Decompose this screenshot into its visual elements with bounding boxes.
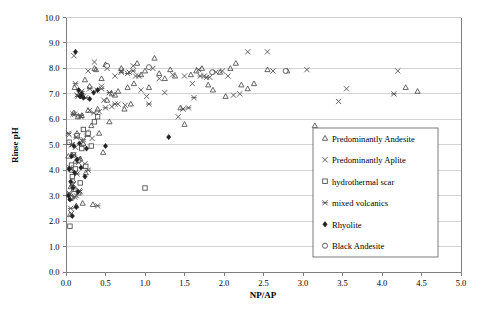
data-point: [130, 68, 135, 73]
data-point: [78, 181, 82, 185]
data-point: [225, 73, 230, 78]
x-tick-label: 5.0: [456, 278, 467, 288]
y-axis-tick-labels: 0.01.02.03.04.05.06.07.08.09.010.0: [45, 13, 60, 278]
data-point: [136, 73, 141, 78]
data-point: [91, 110, 96, 115]
data-point: [103, 105, 108, 110]
legend-label: mixed volcanics: [332, 198, 389, 208]
data-point: [87, 86, 92, 91]
data-point: [198, 73, 203, 78]
data-point: [190, 81, 195, 86]
y-axis-title: Rinse pH: [10, 127, 20, 163]
data-point: [70, 174, 74, 178]
x-tick-label: 3.5: [337, 278, 348, 288]
data-point: [107, 119, 112, 124]
data-point: [231, 93, 236, 98]
data-point: [146, 85, 151, 90]
data-point: [191, 95, 196, 100]
y-tick-label: 0.0: [49, 267, 60, 277]
legend-marker-square-open: [323, 179, 328, 184]
data-point: [270, 68, 275, 73]
x-tick-label: 1.0: [140, 278, 151, 288]
data-point: [182, 122, 187, 127]
data-point: [157, 71, 162, 76]
data-point: [82, 77, 87, 82]
x-tick-label: 0.5: [100, 278, 111, 288]
data-point: [97, 131, 102, 136]
data-point: [176, 114, 181, 119]
legend-marker-circle-open: [322, 243, 327, 248]
data-point: [144, 94, 149, 99]
data-point: [162, 90, 167, 95]
data-point: [90, 202, 95, 207]
legend-label: Rhyolite: [332, 220, 362, 230]
data-point: [103, 143, 107, 148]
x-axis-title: NP/AP: [250, 290, 277, 300]
data-point: [105, 63, 110, 68]
x-tick-label: 3.0: [298, 278, 309, 288]
data-point: [86, 131, 90, 135]
data-point: [138, 87, 143, 92]
x-axis-tick-labels: 0.00.51.01.52.02.53.03.54.04.55.0: [61, 278, 467, 288]
chart-legend: Predominantly AndesitePredominantly Apli…: [313, 128, 438, 257]
x-tick-label: 0.0: [61, 278, 72, 288]
data-point: [265, 49, 270, 54]
data-point: [122, 106, 127, 111]
y-tick-label: 2.0: [49, 216, 60, 226]
data-point: [186, 105, 191, 110]
data-point: [89, 144, 93, 148]
y-tick-label: 6.0: [49, 114, 60, 124]
data-point: [135, 61, 140, 66]
data-point: [99, 84, 104, 89]
data-point: [125, 71, 130, 76]
data-point: [283, 68, 288, 73]
data-point: [210, 70, 215, 75]
data-point: [112, 73, 117, 78]
data-point: [131, 81, 136, 86]
series-hydrothermal-scar: [67, 115, 147, 229]
data-point: [391, 91, 396, 96]
y-tick-label: 10.0: [45, 13, 60, 23]
x-tick-label: 4.0: [377, 278, 388, 288]
y-tick-label: 8.0: [49, 63, 60, 73]
data-point: [80, 146, 84, 150]
data-point: [265, 67, 270, 72]
data-point: [73, 49, 77, 54]
data-point: [116, 89, 121, 94]
data-point: [162, 76, 167, 81]
data-point: [109, 104, 114, 109]
data-point: [304, 67, 309, 72]
data-point: [92, 120, 96, 124]
data-point: [84, 146, 88, 151]
data-point: [80, 201, 85, 206]
x-tick-label: 2.0: [219, 278, 230, 288]
legend-label: Black Andesite: [332, 241, 384, 251]
data-point: [180, 107, 185, 112]
data-point: [152, 55, 157, 60]
data-point: [168, 67, 173, 72]
data-point: [344, 86, 349, 91]
x-tick-label: 1.5: [179, 278, 190, 288]
data-point: [403, 85, 408, 90]
x-tick-label: 4.5: [416, 278, 427, 288]
data-point: [143, 186, 147, 190]
data-point: [167, 135, 171, 140]
data-point: [125, 85, 130, 90]
y-tick-label: 4.0: [49, 165, 60, 175]
y-tick-label: 7.0: [49, 89, 60, 99]
data-point: [182, 73, 187, 78]
data-point: [72, 85, 77, 90]
data-point: [101, 150, 106, 155]
data-point: [204, 75, 209, 80]
data-point: [206, 82, 211, 87]
y-tick-label: 1.0: [49, 242, 60, 252]
legend-box: [313, 128, 438, 257]
data-point: [107, 90, 112, 95]
data-point: [89, 136, 94, 141]
data-point: [128, 101, 133, 106]
legend-label: Predominantly Aplite: [332, 155, 406, 165]
data-point: [88, 96, 92, 101]
data-point: [68, 224, 72, 228]
data-point: [210, 87, 215, 92]
data-point: [146, 65, 151, 70]
